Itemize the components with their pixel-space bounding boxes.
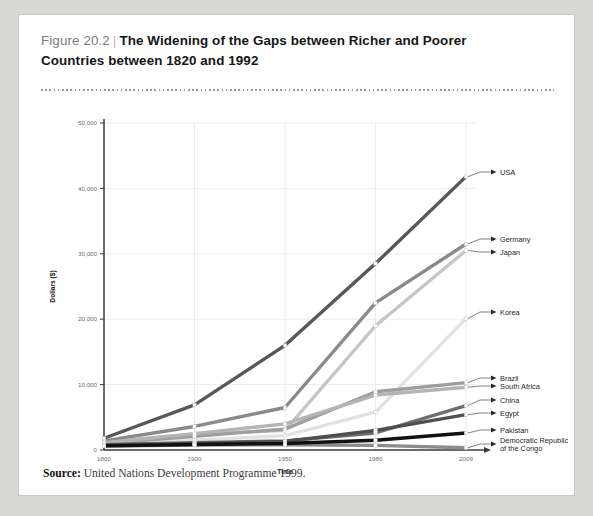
x-tick-label: 1800 [97,455,111,462]
data-point-marker [193,403,196,406]
y-tick-label: 10,000 [78,381,97,388]
leader-line-japan [468,251,491,252]
leader-line-korea [468,312,491,319]
series-label-pakistan: Pakistan [500,426,528,435]
source-text: United Nations Development Programme 199… [84,467,306,480]
series-label-germany: Germany [500,235,531,244]
leader-arrow-icon-south-africa [491,383,497,388]
x-tick-labels: 18001900195019802009 [97,455,473,462]
data-point-marker [464,317,467,320]
series-label-japan: Japan [500,248,520,257]
data-point-marker [374,301,377,304]
y-tick-label: 50,000 [78,119,97,126]
axes-group [100,119,491,453]
data-point-marker [464,431,467,434]
leader-arrow-icon-korea [491,309,497,314]
data-point-marker [374,444,377,447]
data-point-marker [464,446,467,449]
data-point-marker [193,443,196,446]
leader-line-china [468,400,491,406]
leader-line-egypt [468,413,491,415]
series-label-south-africa: South Africa [500,382,541,391]
data-point-marker [374,438,377,441]
data-point-marker [283,443,286,446]
data-point-marker [464,413,467,416]
data-point-marker [464,175,467,178]
leader-line-germany [468,239,491,244]
data-point-marker [283,344,286,347]
leader-arrow-icon-usa [491,169,497,174]
series-label-korea: Korea [500,308,521,317]
x-tick-label: 1950 [278,455,292,462]
data-point-marker [464,404,467,407]
leader-line-democratic-republic-of-the-congo [468,444,491,448]
data-point-marker [283,422,286,425]
leader-arrow-icon-brazil [491,375,497,380]
leader-arrow-icon-germany [491,236,497,241]
data-point-marker [193,425,196,428]
source-note: Source: United Nations Development Progr… [43,467,306,480]
leader-arrow-icon-democratic-republic-of-the-congo [491,441,497,446]
data-point-marker [102,444,105,447]
line-chart: 010,00020,00030,00040,00050,000 18001900… [19,15,576,497]
series-label-usa: USA [500,168,515,177]
data-point-marker [374,262,377,265]
series-label-china: China [500,396,520,405]
data-point-marker [374,410,377,413]
data-point-marker [283,406,286,409]
data-point-marker [283,434,286,437]
leader-line-usa [468,172,491,177]
data-point-marker [464,386,467,389]
y-axis-title: Dollars ($) [49,270,57,302]
leader-arrow-icon-pakistan [491,427,497,432]
data-point-marker [464,381,467,384]
data-point-marker [374,393,377,396]
data-point-marker [283,427,286,430]
leader-line-brazil [468,378,491,383]
data-point-marker [374,429,377,432]
series-label-egypt: Egypt [500,409,519,418]
leader-line-south-africa [468,386,491,387]
data-point-marker [464,249,467,252]
x-axis-arrow-icon [484,447,491,453]
x-tick-label: 1980 [369,455,383,462]
leader-arrow-icon-china [491,397,497,402]
leader-arrow-icon-egypt [491,410,497,415]
y-tick-label: 0 [94,446,98,453]
y-tick-label: 40,000 [78,185,97,192]
series-labels-group: USAGermanyJapanKoreaBrazilSouth AfricaCh… [500,168,568,453]
figure-card: Figure 20.2|The Widening of the Gaps bet… [18,14,575,496]
data-point-marker [374,390,377,393]
x-tick-label: 1900 [188,455,202,462]
data-point-marker [374,324,377,327]
y-tick-labels: 010,00020,00030,00040,00050,000 [78,119,97,453]
label-leader-lines [468,169,497,447]
y-tick-label: 30,000 [78,250,97,257]
leader-line-pakistan [468,430,491,433]
series-label-democratic-republic-of-the-congo: of the Congo [500,444,542,453]
x-tick-label: 2009 [459,455,473,462]
chart-plot-region: 010,00020,00030,00040,00050,000 18001900… [19,15,576,497]
data-point-marker [464,242,467,245]
leader-arrow-icon-japan [491,249,497,254]
y-tick-label: 20,000 [78,315,97,322]
source-label: Source: [43,467,81,480]
data-point-marker [193,432,196,435]
